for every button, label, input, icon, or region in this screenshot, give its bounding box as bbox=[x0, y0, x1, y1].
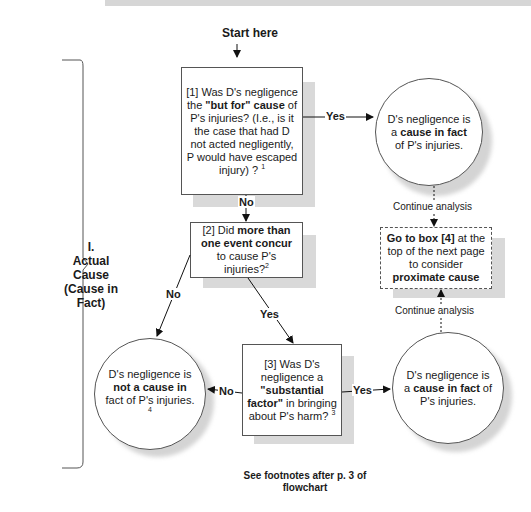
footnote-ref-2: 2 bbox=[265, 262, 269, 269]
circle-no-text-b: not a cause in bbox=[113, 381, 186, 393]
box1-but-for-question: [1] Was D's negligence the "but for" cau… bbox=[181, 67, 303, 195]
circle-not-cause-in-fact: D's negligence is not a cause in fact of… bbox=[94, 338, 206, 450]
edge-label-box2-no: No bbox=[165, 288, 182, 300]
footnote-ref-4: 4 bbox=[148, 406, 152, 413]
page-top-bar bbox=[105, 0, 531, 6]
box3-substantial-factor-question: [3] Was D's negligence a "substantial fa… bbox=[242, 344, 342, 436]
footnote-ref-3: 3 bbox=[331, 409, 335, 416]
section-number: I. bbox=[60, 240, 122, 254]
box2-concur-question: [2] Did more than one event concur to ca… bbox=[190, 222, 303, 278]
continue-analysis-bottom: Continue analysis bbox=[395, 305, 474, 316]
edge-label-box2-yes: Yes bbox=[259, 308, 280, 320]
box4-text-a: Go to box [4] bbox=[387, 232, 455, 244]
box4-text-c: proximate cause bbox=[393, 271, 480, 283]
section-title-1: Actual bbox=[60, 254, 122, 268]
box3-id: [3] bbox=[264, 358, 276, 370]
section-title-3: (Cause in bbox=[60, 282, 122, 296]
section-label: I. Actual Cause (Cause in Fact) bbox=[60, 240, 122, 310]
circle1-text-b: cause in fact bbox=[400, 126, 467, 138]
edge-label-box1-no: No bbox=[238, 196, 255, 208]
edge-label-box1-yes: Yes bbox=[325, 110, 346, 122]
edge-label-box3-yes: Yes bbox=[352, 384, 373, 396]
circle-no-text-a: D's negligence is bbox=[109, 368, 192, 380]
circle-no-text-c: fact of P's injuries. bbox=[106, 394, 195, 406]
box1-id: [1] bbox=[186, 86, 198, 98]
section-title-4: Fact) bbox=[60, 296, 122, 310]
continue-analysis-top: Continue analysis bbox=[393, 201, 472, 212]
box4-goto-proximate-cause[interactable]: Go to box [4] at the top of the next pag… bbox=[380, 227, 492, 289]
footnote-reference: See footnotes after p. 3 of flowchart bbox=[220, 470, 390, 494]
box2-text-a: Did bbox=[215, 224, 238, 236]
circle1-text-c: of P's injuries. bbox=[395, 139, 463, 151]
circle3-text-b: cause in fact bbox=[413, 382, 480, 394]
box1-text-b: "but for" cause bbox=[205, 99, 285, 111]
circle-cause-in-fact-1: D's negligence is a cause in fact of P's… bbox=[375, 78, 483, 186]
box2-id: [2] bbox=[202, 224, 214, 236]
circle-cause-in-fact-3: D's negligence is a cause in fact of P's… bbox=[392, 332, 504, 444]
footnote-ref-1: 1 bbox=[261, 163, 265, 170]
start-label: Start here bbox=[205, 26, 295, 40]
section-title-2: Cause bbox=[60, 268, 122, 282]
edge-label-box3-no: No bbox=[218, 385, 235, 397]
